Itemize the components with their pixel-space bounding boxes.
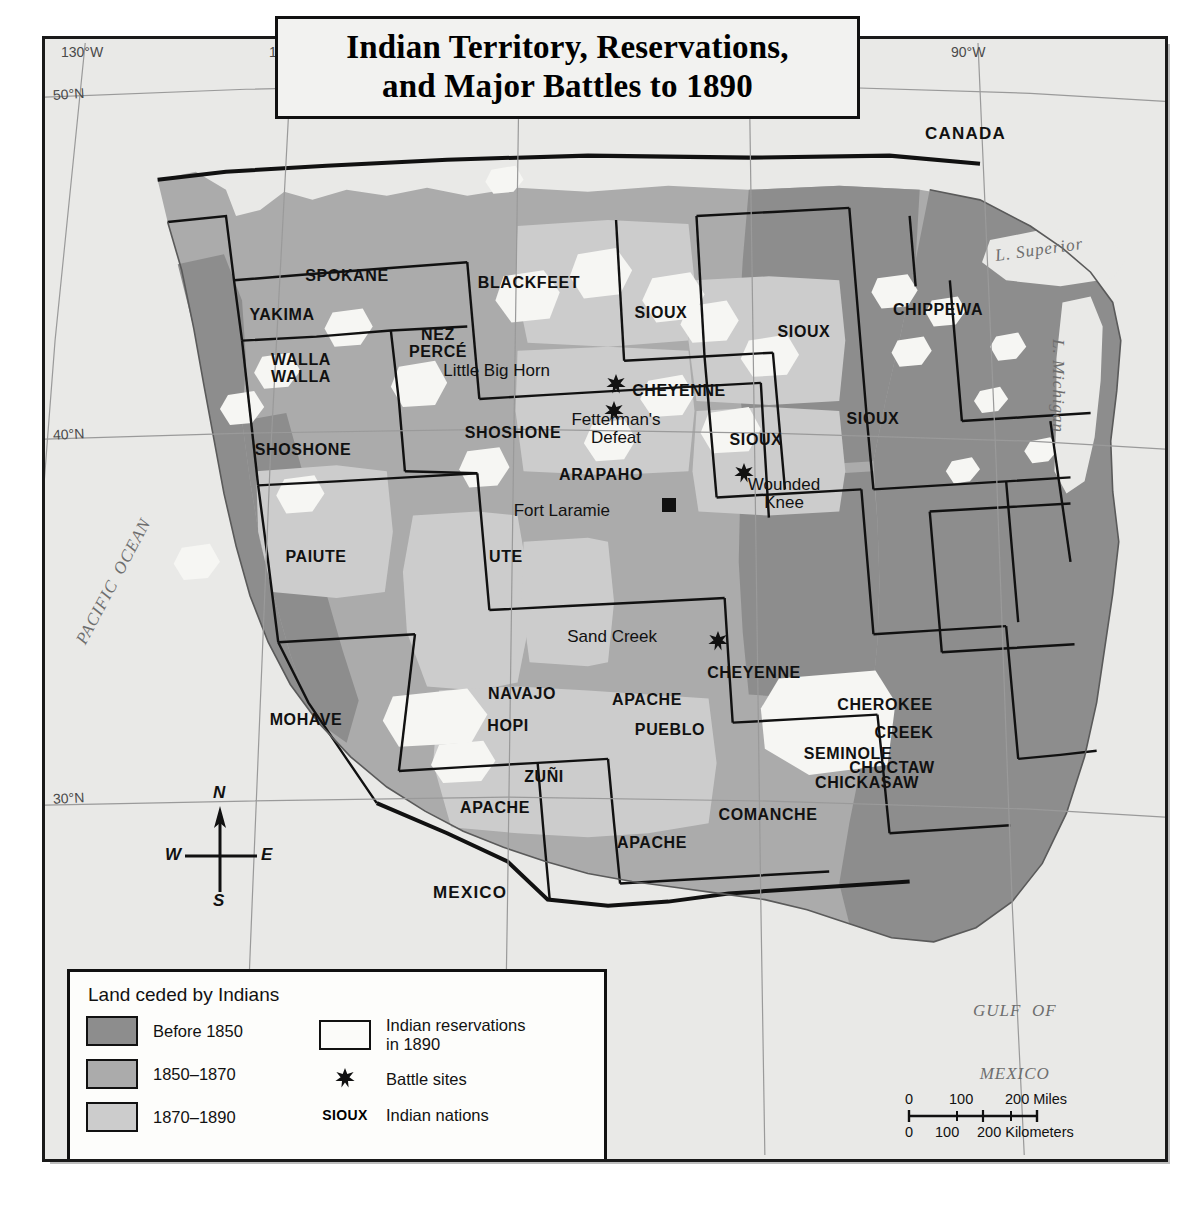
legend-ceded-column: Before 1850 1850–1870 1870–1890 — [86, 1016, 301, 1132]
country-label-mexico: MEXICO — [433, 884, 507, 902]
compass-south-label: S — [213, 892, 224, 910]
map-canvas: 130°W 120°W 110°W 100°W 90°W 50°N 40°N 3… — [45, 39, 1165, 1159]
legend-item-1870-1890: 1870–1890 — [86, 1102, 301, 1132]
legend-label-nations: Indian nations — [386, 1106, 489, 1125]
legend-label-battle-sites: Battle sites — [386, 1070, 467, 1089]
nation-label-blackfeet: BLACKFEET — [477, 274, 581, 291]
nation-label-sioux: SIOUX — [609, 304, 713, 321]
nation-label-chippewa: CHIPPEWA — [886, 301, 990, 318]
battle-label-fetterman-s-defeat: Fetterman's Defeat — [531, 411, 701, 448]
legend-label-reservations: Indian reservations in 1890 — [386, 1016, 525, 1054]
legend-item-before-1850: Before 1850 — [86, 1016, 301, 1046]
latitude-label: 50°N — [53, 86, 85, 103]
nation-label-sioux: SIOUX — [821, 410, 925, 427]
legend-item-reservations: Indian reservations in 1890 — [319, 1016, 525, 1054]
compass-east-label: E — [261, 846, 272, 864]
battle-label-sand-creek: Sand Creek — [487, 628, 657, 646]
legend-item-1850-1870: 1850–1870 — [86, 1059, 301, 1089]
nation-label-pueblo: PUEBLO — [618, 721, 722, 738]
map-legend: Land ceded by Indians Before 1850 1850–1… — [67, 969, 607, 1162]
nation-label-yakima: YAKIMA — [230, 306, 334, 323]
compass-north-label: N — [213, 784, 225, 802]
scale-km-100: 100 — [935, 1124, 959, 1140]
battle-star-icon-little-big-horn — [605, 373, 627, 399]
nation-label-spokane: SPOKANE — [295, 267, 399, 284]
nation-label-creek: CREEK — [852, 724, 956, 741]
legend-swatch-reservations — [319, 1020, 371, 1050]
legend-item-battle-sites: Battle sites — [319, 1067, 525, 1093]
legend-swatch-before-1850 — [86, 1016, 138, 1046]
scale-bar-graphic — [905, 1108, 1135, 1124]
scale-bar: 0 100 200 Miles 0 100 200 Kilometers — [905, 1091, 1135, 1141]
legend-label-1850-1870: 1850–1870 — [153, 1065, 236, 1084]
battle-label-little-big-horn: Little Big Horn — [380, 362, 550, 380]
legend-swatch-1870-1890 — [86, 1102, 138, 1132]
latitude-label: 40°N — [53, 426, 85, 443]
nation-label-mohave: MOHAVE — [254, 711, 358, 728]
scale-miles-200: 200 Miles — [1005, 1091, 1067, 1107]
battle-star-icon-sand-creek — [707, 630, 729, 656]
nation-label-arapaho: ARAPAHO — [549, 466, 653, 483]
nation-label-walla-walla: WALLA WALLA — [249, 351, 353, 386]
nation-label-apache: APACHE — [595, 691, 699, 708]
scale-miles-0: 0 — [905, 1091, 913, 1107]
scale-km-200: 200 Kilometers — [977, 1124, 1074, 1140]
map-frame: 130°W 120°W 110°W 100°W 90°W 50°N 40°N 3… — [42, 36, 1168, 1162]
map-title-line2: and Major Battles to 1890 — [288, 67, 847, 106]
nation-label-sioux: SIOUX — [704, 431, 808, 448]
nation-label-hopi: HOPI — [456, 717, 560, 734]
fort-label-fort-laramie: Fort Laramie — [440, 502, 610, 520]
legend-symbols-column: Indian reservations in 1890 Battle sites… — [319, 1016, 525, 1132]
nation-label-comanche: COMANCHE — [716, 806, 820, 823]
country-label-canada: CANADA — [925, 125, 1006, 143]
nation-label-chickasaw: CHICKASAW — [815, 774, 919, 791]
compass-west-label: W — [165, 846, 181, 864]
legend-item-nations: SIOUX Indian nations — [319, 1106, 525, 1125]
legend-key-nations: SIOUX — [319, 1107, 371, 1123]
gulf-of-mexico-line2: MEXICO — [973, 1063, 1057, 1084]
nation-label-apache: APACHE — [443, 799, 547, 816]
fort-marker-icon-fort-laramie — [662, 498, 676, 512]
scale-miles-100: 100 — [949, 1091, 973, 1107]
latitude-label: 30°N — [53, 790, 85, 807]
legend-title: Land ceded by Indians — [88, 984, 588, 1006]
legend-label-1870-1890: 1870–1890 — [153, 1108, 236, 1127]
nation-label-cheyenne: CHEYENNE — [702, 664, 806, 681]
nation-label-apache: APACHE — [600, 834, 704, 851]
nation-label-zu-i: ZUÑI — [492, 768, 596, 785]
scale-miles-labels: 0 100 200 Miles — [905, 1091, 1135, 1108]
nation-label-shoshone: SHOSHONE — [251, 441, 355, 458]
legend-swatch-1850-1870 — [86, 1059, 138, 1089]
battle-label-wounded-knee: Wounded Knee — [699, 476, 869, 513]
longitude-label: 90°W — [951, 45, 985, 60]
compass-rose: N S W E — [165, 784, 275, 914]
battle-star-icon — [319, 1067, 371, 1093]
nation-label-cherokee: CHEROKEE — [833, 696, 937, 713]
nation-label-navajo: NAVAJO — [470, 685, 574, 702]
nation-label-cheyenne: CHEYENNE — [627, 382, 731, 399]
nation-label-nez-perc-: NEZ PERCÉ — [386, 326, 490, 361]
nation-label-ute: UTE — [454, 548, 558, 565]
gulf-of-mexico-line1: GULF OF — [973, 1000, 1057, 1021]
nation-label-sioux: SIOUX — [752, 323, 856, 340]
map-title: Indian Territory, Reservations, and Majo… — [275, 16, 860, 119]
legend-label-before-1850: Before 1850 — [153, 1022, 243, 1041]
map-title-line1: Indian Territory, Reservations, — [288, 28, 847, 67]
scale-km-0: 0 — [905, 1124, 913, 1140]
lake-michigan-label: L. Michigan — [1049, 339, 1067, 433]
scale-kilometers-labels: 0 100 200 Kilometers — [905, 1124, 1135, 1141]
longitude-label: 130°W — [61, 45, 103, 60]
nation-label-paiute: PAIUTE — [264, 548, 368, 565]
